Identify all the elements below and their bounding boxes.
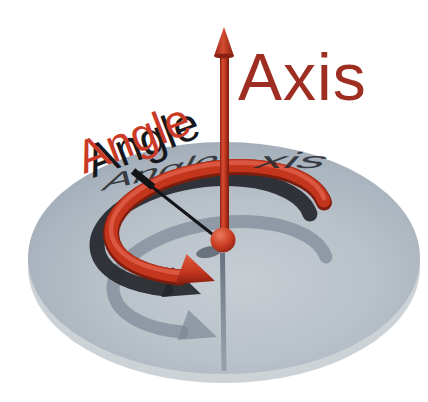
axis-base-sphere [211,228,236,253]
axis-reflection [223,253,225,371]
axis-angle-figure: Angle xis Angle Angle Axis [0,0,428,402]
axis-arrowhead-base [214,53,234,58]
axis-arrowhead [214,27,234,56]
axis-label: Axis [238,40,367,114]
axis-angle-illustration: Angle xis Angle Angle Axis [0,0,428,402]
axis-arrow-shaft [220,54,229,240]
